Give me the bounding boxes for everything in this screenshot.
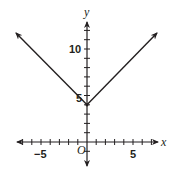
- y-tick-label-5: 5: [76, 92, 82, 104]
- x-axis-label: x: [160, 135, 167, 149]
- graph-right-branch: [87, 33, 157, 105]
- graph: y x O 10 5 −5 5: [0, 0, 175, 175]
- y-axis-label: y: [83, 5, 90, 19]
- vertex-point: [85, 103, 88, 106]
- origin-label: O: [77, 143, 86, 157]
- x-tick-label-5: 5: [130, 148, 136, 160]
- y-tick-label-10: 10: [69, 43, 81, 55]
- x-tick-label-neg5: −5: [34, 148, 47, 160]
